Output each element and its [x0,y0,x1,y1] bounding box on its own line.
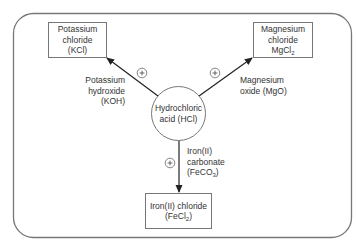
plus-icon [165,158,175,168]
node-magnesium-chloride: Magnesium chloride MgCl2 [253,22,313,58]
node-formula: (FeCl2) [165,211,192,222]
node-label-line: Hydrochloric [155,103,202,114]
node-label-line: Iron(II) chloride [150,201,207,212]
plus-icon [210,68,220,78]
reactant-label-koh: Potassium hydroxide (KOH) [85,75,125,107]
node-label-line: chloride [63,35,93,46]
node-label-line: Magnesium [261,24,305,35]
reactant-label-feco3: Iron(II) carbonate (FeCO3) [187,146,225,178]
node-potassium-chloride: Potassium chloride (KCl) [48,22,107,58]
node-iron-ii-chloride: Iron(II) chloride (FeCl2) [145,193,212,229]
node-label-line: Potassium [58,24,98,35]
node-formula: MgCl2 [271,45,294,56]
node-label-line: acid (HCl) [160,114,198,125]
reactant-label-mgo: Magnesium oxide (MgO) [240,75,287,96]
reactant-formula: (FeCO3) [187,167,225,178]
node-label-line: (KCl) [68,45,87,56]
node-label-line: chloride [268,35,298,46]
plus-icon [137,68,147,78]
node-hydrochloric-acid: Hydrochloric acid (HCl) [151,86,206,141]
